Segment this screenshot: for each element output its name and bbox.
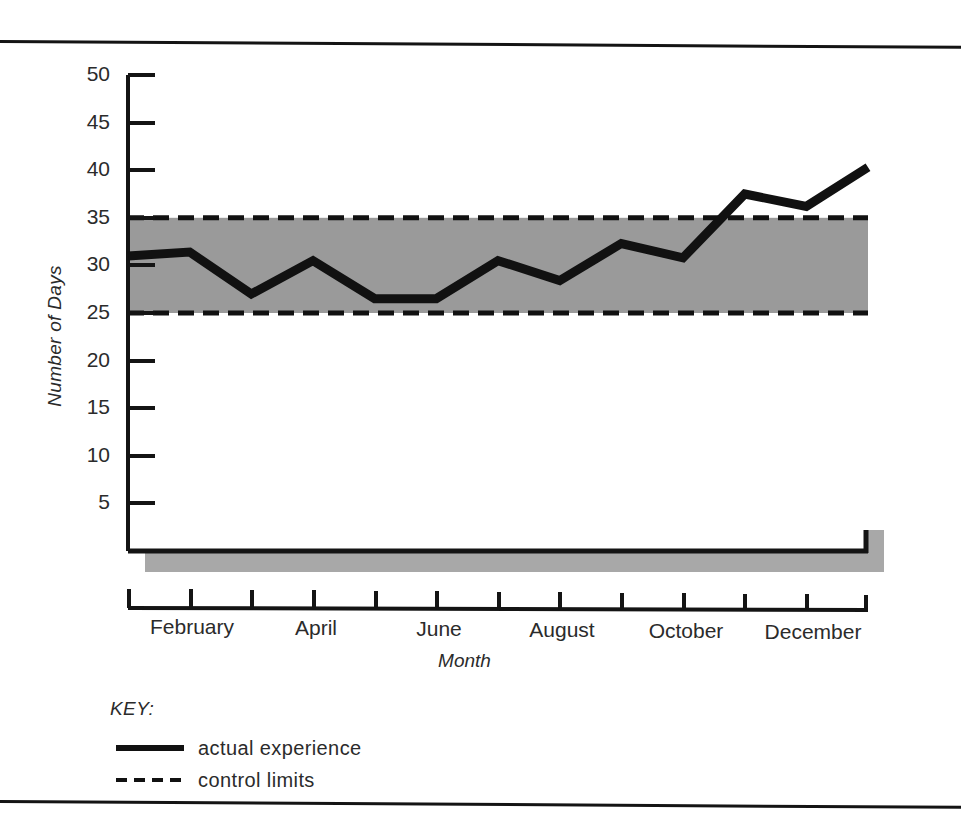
x-tick-label-december: December xyxy=(748,620,878,644)
legend-item-control-limits: control limits xyxy=(110,766,530,794)
y-axis-title-wrap: Number of Days xyxy=(44,236,72,436)
plot-box-shadow-right xyxy=(868,530,884,572)
legend-item-label: actual experience xyxy=(198,737,362,760)
legend-dashed-line-swatch-icon xyxy=(116,773,184,787)
y-tick-label: 35 xyxy=(62,205,110,229)
x-tick-label-october: October xyxy=(625,619,747,643)
y-tick-label: 10 xyxy=(62,443,110,467)
y-tick-label: 50 xyxy=(62,62,110,86)
legend-solid-line-swatch-icon xyxy=(116,741,184,755)
x-tick-label-june: June xyxy=(378,617,500,641)
y-tick-label: 5 xyxy=(62,490,110,514)
plot-box-shadow xyxy=(145,552,884,572)
y-tick-label: 40 xyxy=(62,157,110,181)
x-axis-title: Month xyxy=(438,650,491,671)
legend-item-label: control limits xyxy=(198,769,315,792)
legend-title: KEY: xyxy=(110,698,530,720)
chart-legend: KEY: actual experience control limits xyxy=(110,698,530,798)
x-tick-label-april: April xyxy=(255,616,377,640)
x-tick-label-august: August xyxy=(501,618,623,642)
y-tick-label: 45 xyxy=(62,110,110,134)
x-axis-scale xyxy=(128,589,868,612)
y-axis-title: Number of Days xyxy=(44,236,66,436)
x-tick-label-february: February xyxy=(131,615,253,639)
x-axis-title-wrap: Month xyxy=(0,650,961,672)
legend-item-actual-experience: actual experience xyxy=(110,734,530,762)
chart-figure: 50 45 40 35 30 25 20 15 10 5 Number of D… xyxy=(0,0,961,838)
